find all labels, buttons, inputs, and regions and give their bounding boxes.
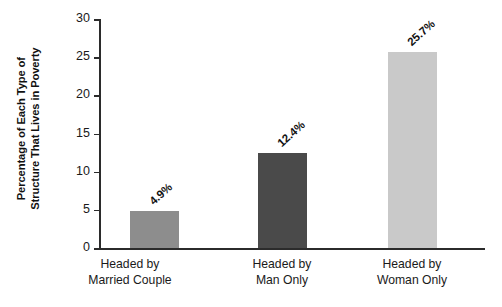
x-axis-category-line-2: Woman Only [344, 272, 480, 288]
y-axis-tick-mark [94, 95, 99, 97]
y-axis-tick-label: 10 [76, 164, 90, 178]
y-axis-tick-label: 30 [76, 11, 90, 25]
x-axis-category-line-2: Man Only [214, 272, 350, 288]
bar-rect [258, 153, 307, 248]
x-axis-category-line-1: Headed by [344, 256, 480, 272]
plot-area: 4.9% 12.4% 25.7% [101, 19, 485, 248]
y-axis-tick-mark [94, 248, 99, 250]
y-axis-tick-mark [94, 57, 99, 59]
x-axis-line [99, 248, 485, 250]
y-axis-tick-label: 25 [76, 49, 90, 63]
y-axis-label-line-2: Structure That Lives in Poverty [29, 48, 43, 210]
y-axis-label-line-1: Percentage of Each Type of [15, 48, 29, 210]
bar-chart: Percentage of Each Type of Structure Tha… [0, 0, 502, 307]
x-axis-category-line-2: Married Couple [62, 272, 198, 288]
y-axis-tick: 20 [0, 95, 99, 96]
x-axis-category-label: Headed by Man Only [214, 256, 350, 288]
y-axis-tick-label: 15 [76, 126, 90, 140]
y-axis-tick: 0 [0, 248, 99, 249]
y-axis-tick-label: 20 [76, 87, 90, 101]
bar-value-label: 25.7% [404, 17, 436, 48]
y-axis-tick-label: 5 [83, 202, 90, 216]
y-axis-tick: 25 [0, 57, 99, 58]
x-axis-category-line-1: Headed by [214, 256, 350, 272]
y-axis-tick-mark [94, 134, 99, 136]
y-axis-tick-mark [94, 210, 99, 212]
bar-value-label: 12.4% [274, 119, 306, 150]
y-axis-tick: 15 [0, 134, 99, 135]
y-axis-tick-mark [94, 172, 99, 174]
y-axis-tick: 10 [0, 172, 99, 173]
y-axis-tick-mark [94, 19, 99, 21]
y-axis-label: Percentage of Each Type of Structure Tha… [0, 0, 58, 258]
y-axis-tick: 30 [0, 19, 99, 20]
bar-rect [388, 52, 437, 248]
y-axis-tick: 5 [0, 210, 99, 211]
x-axis-category-label: Headed by Married Couple [62, 256, 198, 288]
y-axis-tick-label: 0 [83, 240, 90, 254]
x-axis-category-line-1: Headed by [62, 256, 198, 272]
bar-value-label: 4.9% [146, 180, 173, 206]
x-axis-category-label: Headed by Woman Only [344, 256, 480, 288]
bar-rect [130, 211, 179, 248]
